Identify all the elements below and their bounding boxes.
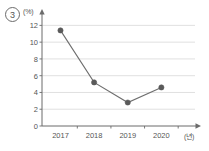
data-series-line [60,30,161,102]
y-axis-arrowhead [39,9,44,15]
x-axis-arrowhead [196,123,202,128]
line-chart-plot [0,0,209,151]
chart-figure: 3 (%) (년) 024681012 2017201820192020 [0,0,209,151]
